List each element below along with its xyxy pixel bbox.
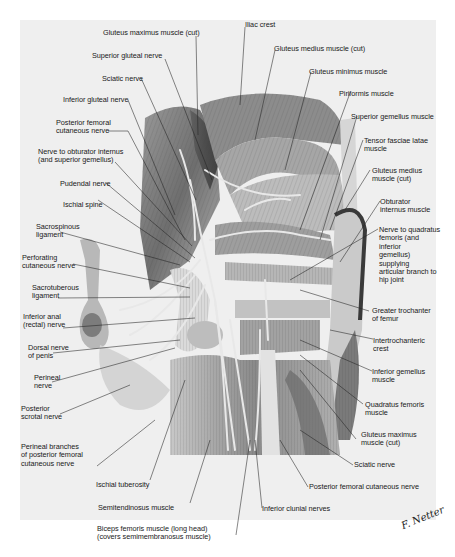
label-sacrospinous-ligament: Sacrospinous ligament	[36, 223, 80, 240]
label-perineal-branches: Perineal branches of posterior femoral c…	[21, 443, 83, 468]
label-piriformis: Piriformis muscle	[339, 90, 394, 98]
label-biceps-femoris: Biceps femoris muscle (long head) (cover…	[97, 525, 211, 542]
label-gluteus-maximus-cut-top: Gluteus maximus muscle (cut)	[103, 29, 200, 37]
label-inferior-anal-nerve: Inferior anal (rectal) nerve	[23, 313, 65, 330]
label-iliac-crest: Iliac crest	[245, 21, 275, 29]
label-semitendinosus: Semitendinosus muscle	[98, 504, 174, 512]
label-obturator-internus: Obturator internus muscle	[380, 198, 430, 215]
label-nerve-to-obturator-internus: Nerve to obturator internus (and superio…	[38, 148, 123, 165]
label-pudendal-nerve: Pudendal nerve	[60, 180, 110, 188]
label-superior-gemellus: Superior gemellus muscle	[351, 113, 434, 121]
label-perineal-nerve: Perineal nerve	[34, 374, 60, 391]
sacrotuberous-ligament	[170, 268, 223, 351]
label-inferior-clunial-nerves: Inferior clunial nerves	[262, 505, 330, 513]
label-dorsal-nerve-of-penis: Dorsal nerve of penis	[28, 344, 69, 361]
label-greater-trochanter: Greater trochanter of femur	[372, 307, 431, 324]
label-gluteus-medius-cut-top: Gluteus medius muscle (cut)	[274, 45, 365, 53]
label-quadratus-femoris: Quadratus femoris muscle	[365, 401, 424, 418]
label-tensor-fasciae-latae: Tensor fasciae latae muscle	[364, 137, 428, 154]
label-sciatic-nerve-top: Sciatic nerve	[102, 75, 143, 83]
label-ischial-tuberosity: Ischial tuberosity	[96, 481, 149, 489]
label-ischial-spine: Ischial spine	[63, 201, 103, 209]
label-posterior-scrotal-nerve: Posterior scrotal nerve	[21, 405, 62, 422]
label-posterior-femoral-cutaneous-nerve-bottom: Posterior femoral cutaneous nerve	[309, 483, 419, 491]
label-perforating-cutaneous-nerve: Perforating cutaneous nerve	[22, 254, 75, 271]
label-sacrotuberous-ligament: Sacrotuberous ligament	[32, 284, 79, 301]
label-gluteus-maximus-cut-right: Gluteus maximus muscle (cut)	[361, 431, 417, 448]
label-posterior-femoral-cutaneous-nerve-left: Posterior femoral cutaneous nerve	[56, 119, 111, 136]
label-inferior-gluteal-nerve: Inferior gluteal nerve	[63, 96, 128, 104]
label-gluteus-medius-cut-right: Gluteus medius muscle (cut)	[372, 167, 422, 184]
label-intertrochanteric-crest: Intertrochanteric crest	[373, 337, 425, 354]
piriformis-gemelli	[215, 222, 335, 318]
label-nerve-to-quadratus-femoris: Nerve to quadratus femoris (and inferior…	[379, 226, 440, 285]
label-superior-gluteal-nerve: Superior gluteal nerve	[92, 52, 162, 60]
label-sciatic-nerve-bottom: Sciatic nerve	[354, 461, 395, 469]
label-inferior-gemellus: Inferior gemellus muscle	[372, 368, 425, 385]
label-gluteus-minimus: Gluteus minimus muscle	[309, 68, 387, 76]
